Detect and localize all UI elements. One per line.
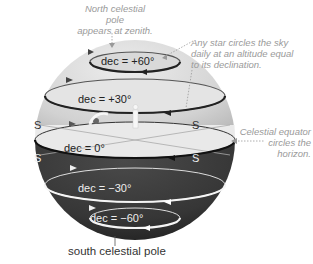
annotation-line: North celestial pole bbox=[75, 3, 155, 25]
south-celestial-pole-label: south celestial pole bbox=[68, 245, 166, 257]
south-label-lower-left: S bbox=[34, 152, 41, 164]
annotation-line: circles the horizon. bbox=[233, 137, 311, 159]
observer-icon bbox=[133, 110, 138, 128]
annotation-line: daily at an altitude equal bbox=[191, 48, 293, 59]
south-label-lower-right: S bbox=[192, 152, 199, 164]
annotation-line: appears at zenith. bbox=[75, 25, 155, 36]
annotation-line: Any star circles the sky bbox=[191, 37, 293, 48]
label-dec-plus-60: dec = +60° bbox=[101, 55, 154, 67]
south-label-upper-left: S bbox=[34, 119, 41, 131]
star-circles-annotation: Any star circles the sky daily at an alt… bbox=[191, 37, 293, 70]
label-dec-0: dec = 0° bbox=[64, 142, 105, 154]
label-dec-plus-30: dec = +30° bbox=[78, 93, 131, 105]
south-label-upper-right: S bbox=[192, 119, 199, 131]
annotation-line: Celestial equator bbox=[233, 126, 311, 137]
zenith-annotation: North celestial pole appears at zenith. bbox=[75, 3, 155, 36]
label-dec-minus-60: dec = −60° bbox=[90, 212, 143, 224]
equator-annotation: Celestial equator circles the horizon. bbox=[233, 126, 311, 159]
label-dec-minus-30: dec = −30° bbox=[78, 182, 131, 194]
annotation-line: to its declination. bbox=[191, 59, 293, 70]
